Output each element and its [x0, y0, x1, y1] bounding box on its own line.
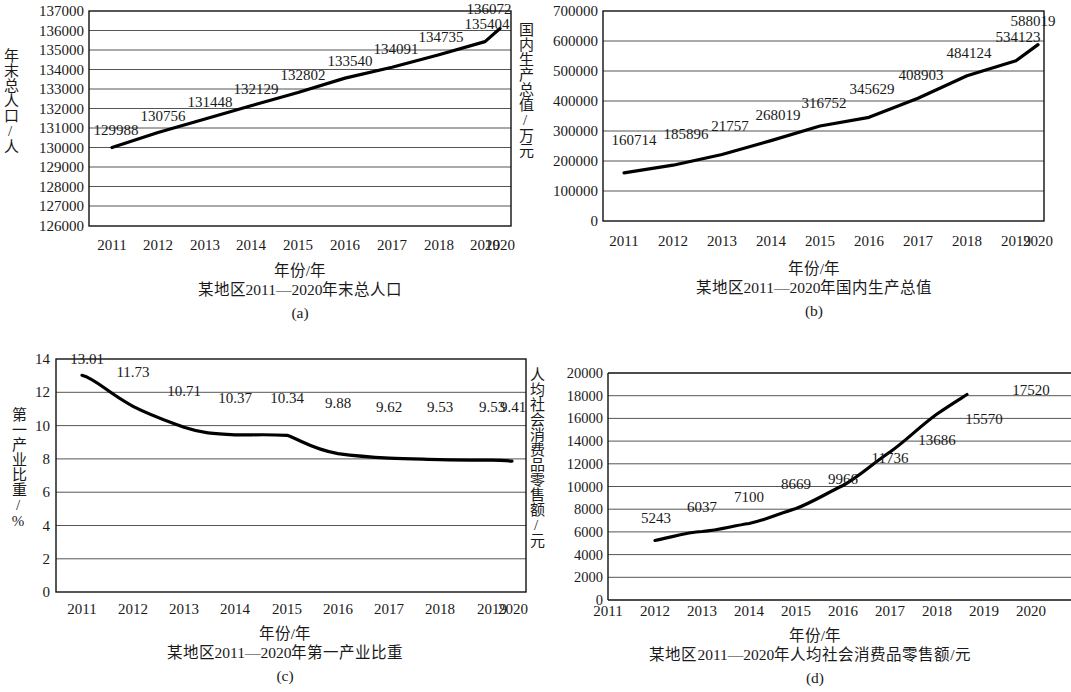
y-tick: 136000 — [39, 23, 84, 39]
chart-b-caption: 某地区2011—2020年国内生产总值 — [574, 278, 1054, 298]
data-label: 9.53 — [427, 399, 453, 415]
chart-b-gridlines — [603, 41, 1044, 191]
x-tick: 2014 — [734, 603, 765, 619]
y-tick: 4000 — [574, 547, 603, 563]
y-tick: 2 — [43, 551, 51, 567]
chart-panel-d: 人均社会消费品零售额/元 20000 18000 16000 14000 120… — [520, 345, 1071, 692]
x-tick: 2020 — [1016, 603, 1046, 619]
y-tick: 127000 — [39, 198, 84, 214]
x-tick: 2013 — [687, 603, 717, 619]
data-label: 408903 — [899, 67, 944, 83]
x-tick: 2011 — [609, 233, 638, 249]
x-tick: 2012 — [118, 601, 148, 617]
y-tick: 129000 — [39, 159, 84, 175]
x-tick: 2017 — [903, 233, 934, 249]
chart-d-y-tick-labels: 20000 18000 16000 14000 12000 10000 8000… — [567, 365, 603, 608]
y-tick: 10 — [35, 418, 50, 434]
y-tick: 12 — [35, 384, 50, 400]
data-label: 13.01 — [70, 351, 104, 367]
y-tick: 2000 — [574, 569, 603, 585]
chart-d-x-tick-labels: 2011 2012 2013 2014 2015 2016 2017 2018 … — [593, 603, 1046, 619]
y-tick: 200000 — [553, 153, 598, 169]
data-label: 136072 — [467, 1, 512, 17]
data-label: 17520 — [1012, 382, 1050, 398]
chart-c-panel-letter: (c) — [40, 667, 530, 685]
x-tick: 2015 — [805, 233, 835, 249]
x-tick: 2016 — [854, 233, 885, 249]
figure-sheet: 年末总人口/人 137000 136000 135000 134000 1330… — [0, 0, 1071, 692]
y-tick: 700000 — [553, 3, 598, 19]
y-tick: 300000 — [553, 123, 598, 139]
x-tick: 2014 — [220, 601, 251, 617]
data-label: 6037 — [687, 499, 718, 515]
data-label: 345629 — [850, 81, 895, 97]
x-tick: 2013 — [169, 601, 199, 617]
y-tick: 400000 — [553, 93, 598, 109]
chart-c-y-axis-title: 第一产业比重/% — [10, 407, 25, 577]
y-tick: 16000 — [567, 410, 603, 426]
x-tick: 2015 — [283, 237, 313, 253]
chart-b-plot: 700000 600000 500000 400000 300000 20000… — [510, 0, 1071, 255]
x-tick: 2014 — [236, 237, 267, 253]
data-label: 160714 — [612, 132, 658, 148]
chart-panel-a: 年末总人口/人 137000 136000 135000 134000 1330… — [0, 0, 535, 330]
chart-d-panel-letter: (d) — [580, 669, 1050, 687]
data-label: 7100 — [734, 489, 764, 505]
data-label: 8669 — [781, 476, 811, 492]
x-tick: 2017 — [374, 601, 405, 617]
x-tick: 2012 — [143, 237, 173, 253]
x-tick: 2017 — [875, 603, 906, 619]
data-label: 9.62 — [376, 399, 402, 415]
chart-c-series-line — [82, 375, 512, 461]
y-tick: 134000 — [39, 62, 84, 78]
chart-b-x-axis-title: 年份/年 — [574, 256, 1054, 278]
data-label: 5243 — [641, 510, 671, 526]
chart-c-plot: 14 12 10 8 6 4 2 0 13.01 11. — [0, 345, 535, 620]
chart-a-y-tick-labels: 137000 136000 135000 134000 133000 13200… — [39, 3, 84, 234]
data-label: 10.37 — [218, 390, 252, 406]
y-tick: 4 — [43, 518, 51, 534]
y-tick: 8 — [43, 451, 51, 467]
chart-b-y-tick-labels: 700000 600000 500000 400000 300000 20000… — [553, 3, 598, 229]
x-tick: 2011 — [97, 237, 126, 253]
chart-c-caption: 某地区2011—2020年第一产业比重 — [40, 643, 530, 663]
y-tick: 6000 — [574, 524, 603, 540]
x-tick: 2019 — [969, 603, 999, 619]
y-tick: 0 — [591, 213, 599, 229]
x-tick: 2013 — [190, 237, 220, 253]
chart-c-gridlines — [56, 392, 526, 559]
chart-c-x-axis-title: 年份/年 — [40, 621, 530, 643]
data-label: 134735 — [419, 29, 464, 45]
data-label: 185896 — [664, 126, 710, 142]
y-tick: 14000 — [567, 433, 603, 449]
y-tick: 128000 — [39, 179, 84, 195]
x-tick: 2012 — [658, 233, 688, 249]
y-tick: 0 — [43, 584, 51, 600]
chart-a-y-axis-title: 年末总人口/人 — [2, 48, 17, 218]
chart-b-y-axis-title: 国内生产总值/万元 — [517, 22, 532, 217]
chart-d-plot: 20000 18000 16000 14000 12000 10000 8000… — [520, 345, 1071, 620]
data-label: 10.71 — [167, 383, 201, 399]
data-label: 21757 — [711, 118, 749, 134]
data-label: 10.34 — [270, 390, 304, 406]
x-tick: 2011 — [67, 601, 96, 617]
y-tick: 131000 — [39, 120, 84, 136]
y-tick: 14 — [35, 351, 51, 367]
data-label: 9.88 — [325, 395, 351, 411]
y-tick: 600000 — [553, 33, 598, 49]
data-label: 588019 — [1011, 13, 1056, 29]
x-tick: 2012 — [640, 603, 670, 619]
chart-panel-c: 第一产业比重/% 14 12 10 8 6 4 2 0 — [0, 345, 535, 692]
x-tick: 2017 — [377, 237, 408, 253]
x-tick: 2011 — [593, 603, 622, 619]
chart-a-series-line — [112, 29, 500, 148]
chart-c-y-tick-labels: 14 12 10 8 6 4 2 0 — [35, 351, 51, 600]
chart-d-data-labels: 5243 6037 7100 8669 9966 11736 13686 155… — [641, 382, 1050, 526]
chart-d-y-axis-title: 人均社会消费品零售额/元 — [528, 367, 543, 607]
x-tick: 2013 — [707, 233, 737, 249]
data-label: 9966 — [828, 471, 859, 487]
y-tick: 135000 — [39, 42, 84, 58]
chart-b-plot-border — [603, 11, 1044, 221]
data-label: 11736 — [872, 450, 909, 466]
x-tick: 2018 — [424, 237, 454, 253]
